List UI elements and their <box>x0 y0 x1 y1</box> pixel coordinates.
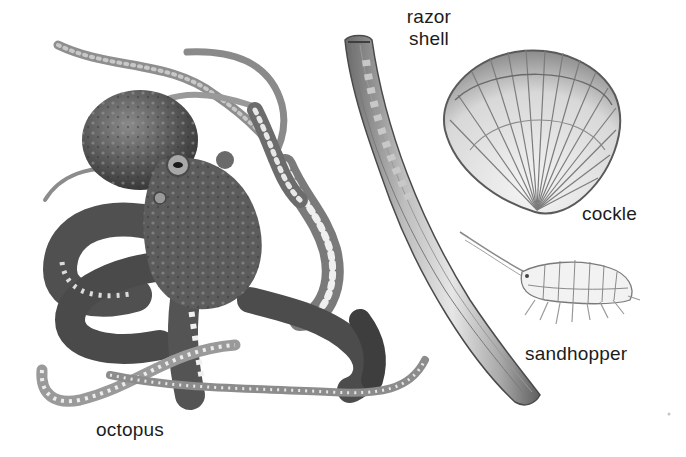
cockle-illustration <box>444 50 620 214</box>
sandhopper-illustration <box>460 232 640 324</box>
cockle-label: cockle <box>582 203 637 225</box>
paper-speck <box>668 413 671 416</box>
sandhopper-label: sandhopper <box>525 343 627 365</box>
razor-shell-label-line1: razor <box>403 6 455 28</box>
illustration-plate: razor shell cockle sandhopper octopus <box>0 0 686 457</box>
razor-shell-label: razor shell <box>403 6 455 50</box>
razor-shell-label-line2: shell <box>403 28 455 50</box>
plate-artwork <box>0 0 686 457</box>
octopus-label: octopus <box>96 419 164 441</box>
